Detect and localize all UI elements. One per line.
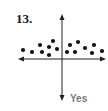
data-point: [92, 43, 96, 47]
data-point: [76, 40, 80, 44]
data-point: [47, 53, 51, 57]
data-point: [21, 48, 25, 52]
x-axis-left-arrow-icon: [18, 57, 24, 62]
data-point: [65, 50, 69, 54]
data-point: [47, 45, 51, 49]
y-axis-up-arrow-icon: [60, 14, 65, 20]
data-point: [100, 49, 104, 53]
answer-label: Yes: [70, 94, 87, 104]
x-axis-right-arrow-icon: [100, 57, 106, 62]
data-point: [83, 46, 87, 50]
data-point: [51, 39, 55, 43]
data-point: [73, 50, 77, 54]
y-axis-down-arrow-icon: [60, 95, 65, 101]
data-point: [68, 43, 72, 47]
data-point: [30, 50, 34, 54]
scatter-plot: [0, 0, 108, 111]
data-point: [38, 43, 42, 47]
data-point: [55, 47, 59, 51]
data-point: [90, 51, 94, 55]
data-point: [40, 50, 44, 54]
